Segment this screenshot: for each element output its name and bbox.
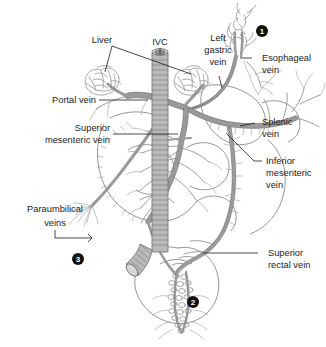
label-smv-line2: mesenteric vein [45,135,110,145]
portal-venous-system-figure: Liver IVC Left gastric vein Esophageal v… [0,0,326,347]
label-superior-rectal-line2: rectal vein [268,260,310,270]
label-imv-line2: mesenteric [266,168,312,178]
label-splenic-vein-line2: vein [262,129,279,139]
label-esophageal-vein-line2: vein [262,65,279,75]
label-liver: Liver [92,35,112,45]
label-smv-line1: Superior [75,123,110,133]
marker-3-number: 3 [76,255,81,264]
label-portal-vein: Portal vein [52,95,96,105]
label-imv-line1: Inferior [266,156,295,166]
marker-3: 3 [72,253,84,265]
label-ivc: IVC [152,37,168,47]
label-left-gastric-vein-line1: Left [210,33,226,43]
marker-2-number: 2 [191,298,196,307]
marker-2: 2 [187,296,199,308]
marker-1: 1 [256,25,268,37]
label-paraumbilical-line1: Paraumbilical [27,204,83,214]
label-imv-line3: vein [266,180,283,190]
label-left-gastric-vein-line2: gastric [204,45,232,55]
label-left-gastric-vein-line3: vein [209,57,226,67]
label-superior-rectal-line1: Superior [268,248,303,258]
label-splenic-vein-line1: Splenic [262,117,293,127]
label-esophageal-vein-line1: Esophageal [262,53,311,63]
anatomy-diagram: Liver IVC Left gastric vein Esophageal v… [0,0,326,347]
label-paraumbilical-line2: veins [44,218,66,228]
marker-1-number: 1 [260,27,265,36]
